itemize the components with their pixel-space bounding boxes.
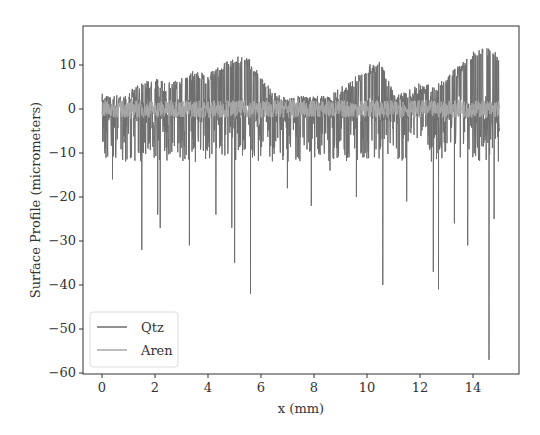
x-tick-label: 8: [310, 380, 318, 395]
x-tick-label: 0: [98, 380, 106, 395]
x-tick-label: 12: [412, 380, 429, 395]
y-tick-label: −20: [49, 189, 76, 204]
legend-label-aren: Aren: [140, 343, 173, 358]
y-tick-label: −60: [49, 365, 76, 380]
x-tick-label: 6: [257, 380, 265, 395]
y-tick-label: −30: [49, 233, 76, 248]
x-axis-label: x (mm): [278, 401, 324, 416]
legend-label-qtz: Qtz: [141, 320, 164, 335]
x-tick-label: 14: [465, 380, 482, 395]
y-tick-label: 0: [68, 101, 76, 116]
y-tick-label: −50: [49, 321, 76, 336]
chart: 02468101214 100−10−20−30−40−50−60 x (mm)…: [0, 0, 540, 435]
y-axis: 100−10−20−30−40−50−60: [49, 57, 83, 380]
y-tick-label: −10: [49, 145, 76, 160]
x-tick-label: 10: [359, 380, 376, 395]
x-tick-label: 4: [204, 380, 212, 395]
y-tick-label: 10: [59, 57, 76, 72]
y-tick-label: −40: [49, 277, 76, 292]
x-tick-label: 2: [151, 380, 159, 395]
legend: Qtz Aren: [90, 312, 178, 367]
x-axis: 02468101214: [98, 374, 481, 395]
y-axis-label: Surface Profile (micrometers): [28, 102, 43, 298]
